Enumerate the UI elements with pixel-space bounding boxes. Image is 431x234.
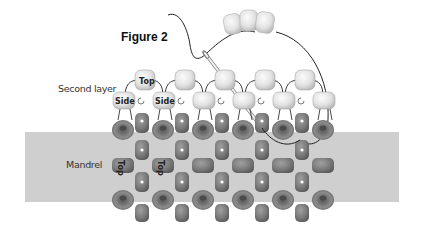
second-layer-label: Second layer bbox=[58, 83, 116, 94]
bead-label-mandrel-top-2: Top bbox=[156, 160, 165, 176]
beading-diagram: Top Side Side Top Top bbox=[0, 0, 431, 234]
mandrel-label: Mandrel bbox=[66, 159, 102, 170]
bead-label-top: Top bbox=[139, 77, 155, 86]
bead-label-side-right: Side bbox=[155, 97, 175, 106]
bead-label-side-left: Side bbox=[115, 97, 135, 106]
bead-label-mandrel-top-1: Top bbox=[116, 160, 125, 176]
figure-title: Figure 2 bbox=[121, 30, 168, 44]
strung-beads bbox=[222, 10, 275, 36]
